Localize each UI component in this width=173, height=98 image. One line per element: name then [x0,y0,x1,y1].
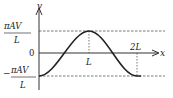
top-label-numerator: πAV [3,21,22,31]
bottom-label-numerator: πAV [10,65,29,75]
bottom-label-denominator: L [19,80,26,90]
y-axis-label: v [37,1,42,11]
x-tick-2l: 2L [129,42,141,52]
zero-label: 0 [29,48,34,58]
x-axis-label: x [160,48,165,58]
bottom-label-sign: − [3,68,11,78]
top-label-denominator: L [13,35,20,45]
velocity-graph: v x πAV L 0 − πAV L L 2L [0,0,173,98]
x-tick-l: L [85,57,92,67]
